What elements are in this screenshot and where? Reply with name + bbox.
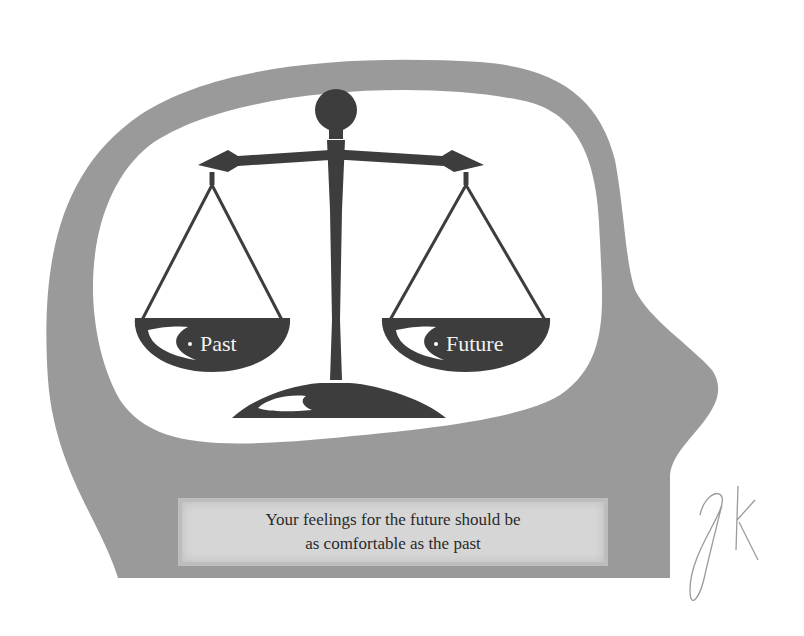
right-pan-dot <box>434 342 438 346</box>
caption-line-1: Your feelings for the future should be <box>265 508 520 532</box>
caption-line-2: as comfortable as the past <box>305 532 481 556</box>
artist-signature-icon <box>690 486 758 600</box>
right-pan-label: Future <box>446 333 503 355</box>
left-pan-label: Past <box>200 333 237 355</box>
caption-box: Your feelings for the future should be a… <box>178 498 608 566</box>
illustration-canvas: Past Future Your feelings for the future… <box>0 0 804 636</box>
left-pan-dot <box>188 342 192 346</box>
